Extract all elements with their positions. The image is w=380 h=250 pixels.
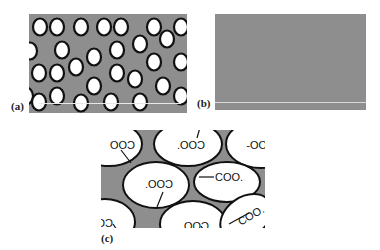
baseline: [39, 103, 181, 104]
panel-a: [29, 14, 187, 113]
panel-a-label: (a): [11, 100, 24, 112]
group-label: COO.: [177, 139, 205, 151]
group-label: COO-: [246, 139, 265, 151]
baseline-b: [215, 102, 366, 103]
panel-c: COO COO. COO- COO. COO. CO COO. COO.: [101, 130, 265, 228]
group-label: COO: [110, 139, 136, 151]
panel-b: [215, 14, 366, 110]
group-label: CO: [101, 217, 113, 228]
panel-c-label: (c): [101, 232, 113, 244]
particles-a: [29, 14, 187, 113]
group-label: COO.: [181, 220, 209, 228]
panel-b-label: (b): [197, 97, 210, 109]
group-label: COO.: [145, 178, 173, 190]
domains-c: COO COO. COO- COO. COO. CO COO. COO.: [101, 130, 265, 228]
group-label: COO.: [215, 171, 243, 183]
